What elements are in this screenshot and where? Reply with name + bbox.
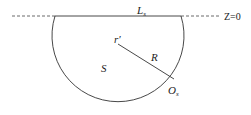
label-radius: R: [150, 51, 158, 63]
label-ls: Ls: [136, 4, 146, 18]
label-center: r′: [114, 33, 121, 45]
label-region: S: [101, 62, 107, 74]
label-os: Os: [168, 84, 179, 98]
radius-line: [118, 44, 174, 79]
label-z0: Z=0: [224, 11, 241, 22]
circle-arc: [52, 16, 184, 102]
diagram-canvas: Ls Z=0 r′ R S Os: [0, 0, 251, 115]
